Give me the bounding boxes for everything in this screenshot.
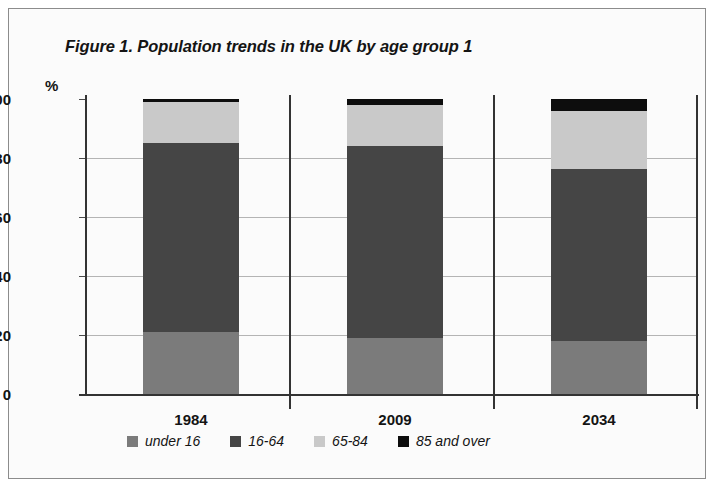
bar-segment-65-84[interactable]: [143, 102, 239, 143]
x-tick-label-2009: 2009: [320, 411, 470, 428]
bar-group-1984[interactable]: [143, 99, 239, 394]
y-tick-label-0: 0: [0, 386, 11, 403]
bar-segment-85-and-over[interactable]: [551, 99, 647, 111]
bar-segment-16-64[interactable]: [347, 146, 443, 338]
bar-segment-16-64[interactable]: [143, 143, 239, 332]
category-separator-3: [696, 95, 698, 409]
y-tick-label-100: 100: [0, 91, 11, 108]
bar-stack: [143, 99, 239, 394]
bar-stack: [347, 99, 443, 394]
legend-item-85-and-over[interactable]: 85 and over: [398, 433, 490, 449]
legend-swatch-icon: [314, 436, 325, 447]
y-axis-line: [85, 95, 87, 394]
legend-item-under-16[interactable]: under 16: [127, 433, 200, 449]
x-tick-label-1984: 1984: [116, 411, 266, 428]
y-tick-label-20: 20: [0, 327, 11, 344]
bar-stack: [551, 99, 647, 394]
x-axis-line: [79, 394, 699, 396]
legend-item-16-64[interactable]: 16-64: [230, 433, 284, 449]
x-tick-label-2034: 2034: [524, 411, 674, 428]
plot-area: 100 80 60 40 20 0 1984: [85, 99, 697, 394]
legend-item-65-84[interactable]: 65-84: [314, 433, 368, 449]
figure-frame: Figure 1. Population trends in the UK by…: [8, 8, 706, 479]
bar-segment-16-64[interactable]: [551, 169, 647, 341]
legend-swatch-icon: [230, 436, 241, 447]
y-axis-unit-label: %: [45, 77, 58, 94]
bar-segment-under-16[interactable]: [551, 341, 647, 394]
legend-swatch-icon: [127, 436, 138, 447]
bar-segment-under-16[interactable]: [143, 332, 239, 394]
y-tick-label-60: 60: [0, 209, 11, 226]
category-separator-2: [493, 95, 495, 409]
legend-label: under 16: [145, 433, 200, 449]
chart-title: Figure 1. Population trends in the UK by…: [65, 37, 472, 56]
bar-segment-65-84[interactable]: [551, 111, 647, 169]
category-separator-1: [289, 95, 291, 409]
legend-label: 16-64: [248, 433, 284, 449]
y-tick-label-80: 80: [0, 150, 11, 167]
legend-label: 65-84: [332, 433, 368, 449]
bar-group-2034[interactable]: [551, 99, 647, 394]
legend-label: 85 and over: [416, 433, 490, 449]
legend-swatch-icon: [398, 436, 409, 447]
bar-group-2009[interactable]: [347, 99, 443, 394]
legend: under 16 16-64 65-84 85 and over: [127, 433, 520, 449]
bar-segment-under-16[interactable]: [347, 338, 443, 394]
y-tick-label-40: 40: [0, 268, 11, 285]
bar-segment-65-84[interactable]: [347, 105, 443, 146]
